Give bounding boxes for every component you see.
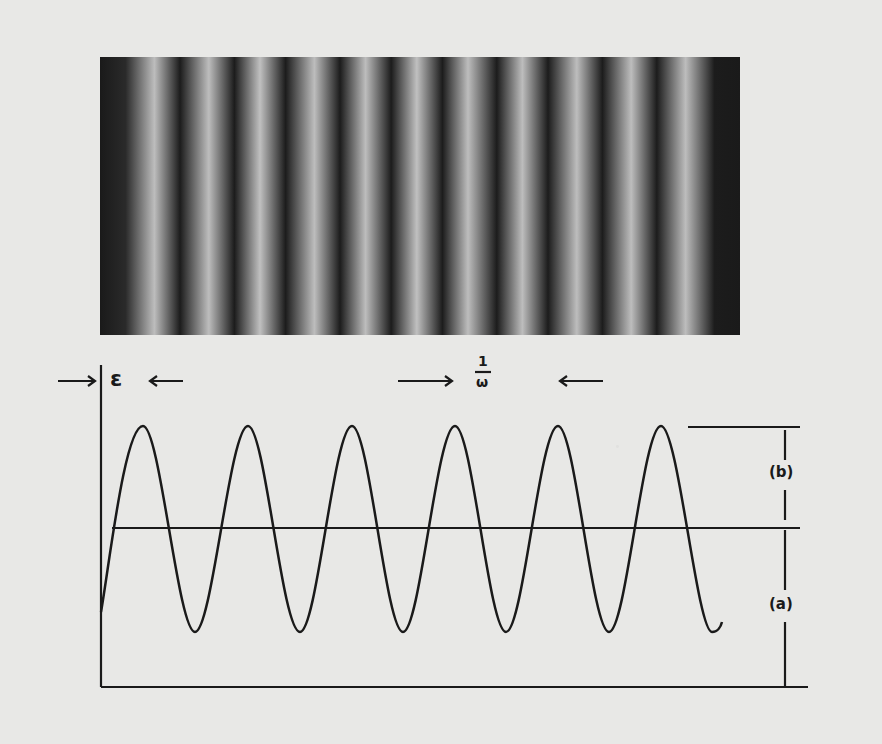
mean-label-a: (a): [769, 595, 793, 613]
plot-axes: [58, 365, 808, 687]
period-label-numerator: 1: [478, 353, 488, 369]
epsilon-label: ε: [110, 366, 122, 391]
figure-canvas: [0, 0, 882, 744]
period-label-denominator: ω: [476, 374, 488, 390]
fringe-image: [100, 57, 740, 335]
amplitude-label-b: (b): [769, 463, 793, 481]
